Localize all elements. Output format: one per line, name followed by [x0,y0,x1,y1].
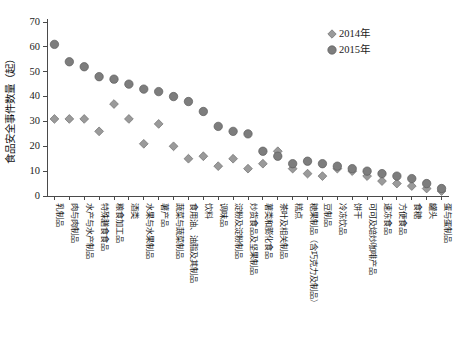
point-2014-3 [95,127,104,136]
point-2014-5 [124,115,133,124]
point-2015-26 [437,184,445,192]
point-2015-22 [378,169,386,177]
point-2015-3 [95,72,103,80]
point-2015-17 [303,157,311,165]
x-axis-label-14: 薯类和膨化食品 [264,203,274,259]
point-2015-4 [110,75,118,83]
point-2015-7 [154,87,162,95]
point-2015-6 [140,85,148,93]
point-2015-2 [80,63,88,71]
x-axis-label-11: 调味品 [219,203,229,227]
x-axis-label-10: 饮料 [204,203,214,219]
x-axis-label-15: 茶叶及相关制品 [279,203,289,259]
point-2015-23 [393,172,401,180]
point-2015-15 [274,152,282,160]
x-axis-label-23: 方便食品 [398,203,408,235]
x-axis-label-12: 淀粉及淀粉制品 [234,203,244,259]
x-axis-label-21: 可可及焙炒咖啡产品 [368,203,378,275]
y-tick-label-20: 20 [30,140,41,151]
point-2015-21 [363,167,371,175]
x-axis-label-2: 水产与水产制品 [85,203,95,259]
point-2015-19 [333,162,341,170]
legend-marker-2014年 [328,30,336,38]
point-2014-6 [139,139,148,148]
x-axis-label-1: 肉与肉制品 [70,203,80,243]
point-2014-12 [229,154,238,163]
y-tick-label-70: 70 [30,16,41,27]
x-axis-label-17: 糖果制品（含巧克力及制品） [309,203,319,307]
y-tick-label-30: 30 [30,115,41,126]
y-tick-label-50: 50 [30,66,41,77]
point-2014-1 [65,115,74,124]
point-2014-9 [184,154,193,163]
x-axis-label-25: 罐头 [428,203,438,219]
legend-label-2015年: 2015年 [339,43,370,55]
point-2014-17 [303,169,312,178]
x-axis-label-3: 特殊膳食食品 [100,203,110,251]
x-axis-label-22: 速冻食品 [383,203,393,235]
x-axis-label-18: 豆制品 [323,203,333,227]
x-axis-label-0: 乳制品 [55,203,65,227]
x-axis-label-16: 糕点 [294,203,304,219]
point-2014-18 [318,172,327,181]
x-axis-label-13: 炒货食品及坚果制品 [249,203,259,275]
x-axis-label-24: 食糖 [413,203,423,219]
point-2014-8 [169,142,178,151]
series-2014年 [50,100,446,196]
y-tick-label-0: 0 [35,190,40,201]
chart-canvas: 010203040506070食品安全事件数量（起）乳制品肉与肉制品水产与水产制… [0,0,454,340]
x-axis-label-9: 食用油、油脂及其制品 [189,203,199,283]
point-2015-18 [318,159,326,167]
legend-label-2014年: 2014年 [339,27,370,39]
scatter-chart: 010203040506070食品安全事件数量（起）乳制品肉与肉制品水产与水产制… [0,0,454,340]
point-2014-4 [110,100,119,109]
x-axis-label-8: 蔬菜与蔬菜制品 [175,203,185,259]
point-2014-11 [214,162,223,171]
x-axis-label-6: 水果与水果制品 [145,203,155,259]
x-axis-label-5: 酒类 [130,203,140,219]
y-tick-label-60: 60 [30,41,41,52]
point-2014-13 [244,164,253,173]
point-2015-0 [50,40,58,48]
y-axis-title: 食品安全事件数量（起） [4,54,16,164]
point-2015-16 [288,159,296,167]
point-2015-13 [244,130,252,138]
point-2015-8 [169,92,177,100]
x-axis-label-4: 粮食加工品 [115,203,125,243]
x-axis-label-19: 冷冻饮品 [338,203,348,235]
point-2015-12 [229,127,237,135]
point-2015-1 [65,58,73,66]
point-2014-2 [80,115,89,124]
y-tick-label-40: 40 [30,90,41,101]
point-2015-25 [422,179,430,187]
x-axis-label-26: 蛋与蛋制品 [443,203,453,243]
point-2014-10 [199,152,208,161]
point-2015-14 [259,147,267,155]
point-2015-9 [184,97,192,105]
point-2014-14 [258,159,267,168]
x-axis-label-20: 饼干 [353,203,363,219]
y-tick-label-10: 10 [30,165,41,176]
point-2015-20 [348,164,356,172]
point-2015-5 [125,80,133,88]
point-2015-24 [408,174,416,182]
legend-marker-2015年 [328,46,336,54]
point-2014-7 [154,120,163,129]
point-2015-10 [199,107,207,115]
point-2014-0 [50,115,59,124]
x-axis-label-7: 薯产品 [160,203,170,227]
point-2015-11 [214,122,222,130]
